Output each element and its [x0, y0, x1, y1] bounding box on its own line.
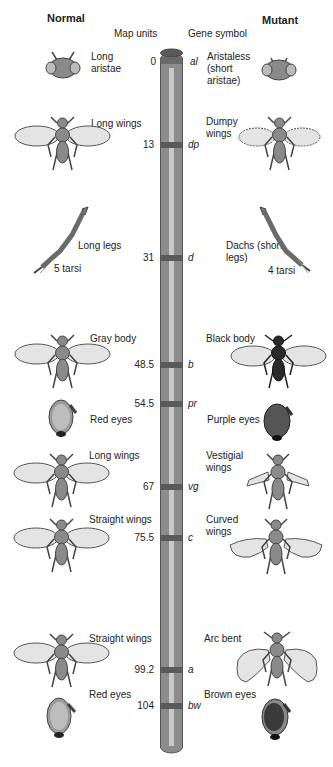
fly-gray-body-icon	[15, 333, 110, 391]
fly-curved-wings-icon	[228, 517, 324, 577]
normal-header: Normal	[47, 12, 85, 24]
map-units-pr: 54.5	[114, 398, 154, 409]
brown-eye-icon	[260, 692, 294, 742]
mutant-label-pr: Purple eyes	[207, 414, 260, 426]
gene-symbol-b: b	[188, 359, 194, 370]
fly-long-wings-icon	[15, 115, 110, 173]
fly-straight-wings-icon	[14, 632, 109, 690]
gene-symbol-pr: pr	[188, 398, 197, 409]
gene-symbol-a: a	[188, 664, 194, 675]
normal-label-pr: Red eyes	[90, 414, 132, 426]
chromosome	[160, 48, 183, 760]
fly-head-long-aristae-icon	[44, 50, 82, 80]
gene-symbol-bw: bw	[188, 700, 201, 711]
fly-dumpy-wings-icon	[237, 115, 322, 173]
fly-vestigial-wings-icon	[243, 452, 313, 512]
fly-straight-wings-icon	[14, 517, 109, 575]
long-leg-icon	[30, 205, 90, 275]
red-eye-icon	[48, 395, 80, 437]
fly-head-short-aristae-icon	[260, 54, 298, 82]
gene-symbol-al: al	[190, 56, 198, 67]
map-units-dp: 13	[114, 139, 154, 150]
normal-label-bw: Red eyes	[89, 689, 131, 701]
fly-arc-bent-icon	[232, 630, 322, 692]
map-units-b: 48.5	[114, 359, 154, 370]
gene-symbol-dp: dp	[188, 139, 199, 150]
gene-symbol-header: Gene symbol	[188, 28, 247, 39]
map-units-bw: 104	[114, 700, 154, 711]
short-leg-icon	[258, 205, 318, 275]
mutant-header: Mutant	[262, 14, 298, 26]
gene-symbol-vg: vg	[188, 481, 199, 492]
map-units-header: Map units	[114, 28, 157, 39]
fly-long-wings-icon	[14, 452, 109, 510]
purple-eye-icon	[262, 397, 296, 441]
fly-black-body-icon	[231, 333, 326, 391]
gene-symbol-d: d	[188, 252, 194, 263]
gene-symbol-c: c	[188, 532, 193, 543]
map-units-d: 31	[114, 252, 154, 263]
map-units-c: 75.5	[114, 532, 154, 543]
normal-label-al: Long aristae	[91, 51, 131, 75]
map-units-vg: 67	[114, 481, 154, 492]
red-eye-icon	[46, 692, 78, 740]
map-units-a: 99.2	[114, 664, 154, 675]
mutant-label-al: Aristaless (short aristae)	[207, 51, 259, 87]
